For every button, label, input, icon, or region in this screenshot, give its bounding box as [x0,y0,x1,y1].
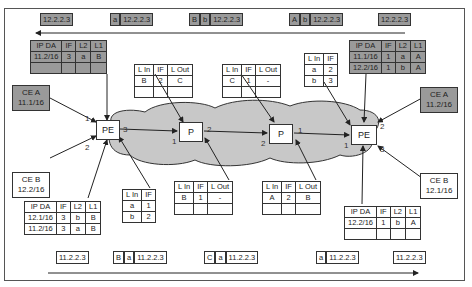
table-row [263,204,321,215]
cell: B [175,193,194,204]
pe-right-vrf-table-bottom: IP DAIFL2L1 12.2/161bA [344,206,421,240]
col-header: L In [223,65,242,76]
port-label: 1 [172,137,176,146]
cell: 1 [382,52,396,63]
ce-b-left: CE B 12.2/16 [12,172,50,198]
port-label: 2 [261,139,265,148]
cell: 1 [242,76,256,87]
table-row [223,87,281,98]
col-header: L In [305,54,324,65]
col-header: L2 [70,202,85,213]
p-right-lfib-top: L InIFL Out C1- [222,64,281,98]
table-row [135,87,193,98]
packet-field: a [124,251,134,264]
cell: 3 [57,213,71,224]
ce-name: CE B [13,175,49,185]
cell [76,63,91,74]
p-right-router: P [269,124,293,144]
cell: B [86,224,101,235]
packet-field: 11.2.2.3 [393,251,426,264]
packet-field: 11.2.2.3 [226,251,259,264]
table-row: a2 [305,65,338,76]
ce-prefix: 12.2/16 [13,185,49,195]
packet-top-4: A b 12.2.2.3 [289,13,343,26]
pe-right-vrf-table-top: IP DAIFL2L1 11.1/161aA 12.2/161bA [349,40,426,74]
pe-left-lfib: L InIF a1 b2 [122,189,156,223]
cell: A [263,193,282,204]
col-header: L In [263,182,282,193]
cell [31,63,62,74]
cell [62,63,76,74]
cell: 1 [377,218,391,229]
table-row: b3 [305,76,338,87]
cell: a [76,52,91,63]
table-row: a1 [123,201,156,212]
p-left-lfib-bottom: L InIFL Out B1- [174,181,233,215]
cell [207,204,232,215]
cell: A [406,218,421,229]
port-label: 3 [380,145,384,154]
col-header: IP DA [350,41,382,52]
cell: b [70,213,85,224]
packet-field: 11.2.2.3 [326,251,359,264]
ce-a-left: CE A 11.1/16 [12,85,50,111]
cell [194,204,208,215]
table-row: 12.2/161bA [345,218,421,229]
port-label: 2 [380,122,384,131]
col-header: L1 [91,41,106,52]
cell [154,87,168,98]
col-header: L1 [411,41,426,52]
cell: b [305,76,324,87]
packet-bottom-5: 11.2.2.3 [393,251,426,264]
ce-name: CE B [421,176,457,186]
col-header: IP DA [31,41,62,52]
pe-left-vrf-table-top: IP DAIFL2L1 11.2/163aB [30,40,107,74]
cell [175,204,194,215]
packet-field: B [189,13,200,26]
cell [377,229,391,240]
cell [345,229,377,240]
cell: 2 [282,193,296,204]
pe-left-vrf-table-bottom: IP DAIFL2L1 12.1/163bB 11.2/163aB [24,201,101,235]
port-label: 2 [85,143,89,152]
packet-field: a [316,251,326,264]
packet-field: 11.2.2.3 [134,251,167,264]
cell [282,204,296,215]
cell: a [123,201,142,212]
ce-a-right: CE A 11.2/16 [420,87,458,113]
table-row: A2B [263,193,321,204]
table-row: 12.2/161bA [350,63,426,74]
node-label: PE [102,125,114,135]
mpls-cloud [109,100,379,166]
col-header: IP DA [345,207,377,218]
col-header: IF [324,54,338,65]
cell [390,229,405,240]
packet-top-2: a 12.2.2.3 [110,13,153,26]
table-row: 11.1/161aA [350,52,426,63]
packet-bottom-3: C a 11.2.2.3 [204,251,258,264]
pe-right-lfib: L InIF a2 b3 [304,53,338,87]
col-header: IF [242,65,256,76]
cell: B [86,213,101,224]
node-label: P [278,129,284,139]
table-row: 11.2/163aB [31,52,107,63]
cell: 2 [324,65,338,76]
packet-field: 11.2.2.3 [56,251,89,264]
cell: A [411,52,426,63]
cell [255,87,280,98]
packet-top-1: 12.2.2.3 [40,13,73,26]
cell: B [135,76,154,87]
packet-bottom-4: a 11.2.2.3 [316,251,359,264]
cell: B [91,52,106,63]
col-header: IF [62,41,76,52]
cell: A [411,63,426,74]
col-header: L Out [255,65,280,76]
table-row: B1- [175,193,233,204]
table-row: 12.1/163bB [25,213,101,224]
col-header: L2 [395,41,410,52]
cell: 12.1/16 [25,213,57,224]
port-label: 3 [123,125,127,134]
port-label: 1 [298,126,302,135]
col-header: IF [382,41,396,52]
cell: a [305,65,324,76]
